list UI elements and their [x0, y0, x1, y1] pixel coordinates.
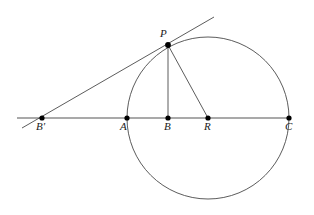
label-p: P	[160, 28, 167, 39]
label-c: C	[285, 121, 292, 132]
label-a: A	[120, 121, 127, 132]
geometry-figure: B' A B R C P	[0, 0, 314, 215]
label-b: B	[164, 121, 171, 132]
point-p	[165, 42, 171, 48]
label-b-prime: B'	[36, 121, 45, 132]
pr-segment	[168, 45, 208, 118]
label-r: R	[204, 121, 211, 132]
tangent-segment	[22, 17, 214, 128]
geometry-canvas	[0, 0, 314, 215]
